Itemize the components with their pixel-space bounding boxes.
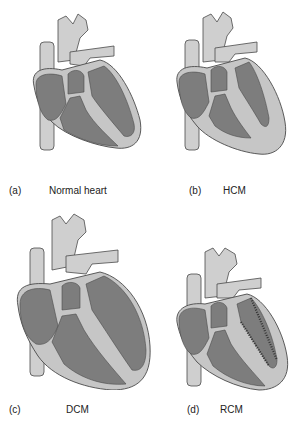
- panel-label: Normal heart: [49, 185, 107, 196]
- dcm-heart-illustration: [0, 210, 151, 390]
- panel-rcm: (d) RCM: [151, 210, 302, 429]
- rcm-heart-illustration: [151, 210, 302, 400]
- panel-hcm: (b) HCM: [151, 0, 302, 210]
- panel-normal-heart: (a) Normal heart: [0, 0, 151, 210]
- panel-label: HCM: [223, 185, 246, 196]
- panel-letter: (d): [187, 404, 199, 415]
- panel-letter: (a): [9, 185, 21, 196]
- panel-letter: (c): [9, 404, 21, 415]
- panel-dcm: (c) DCM: [0, 210, 151, 429]
- normal-heart-illustration: [0, 0, 151, 160]
- hcm-heart-illustration: [151, 0, 302, 160]
- panel-label: RCM: [220, 404, 243, 415]
- panel-label: DCM: [66, 404, 89, 415]
- panel-letter: (b): [189, 185, 201, 196]
